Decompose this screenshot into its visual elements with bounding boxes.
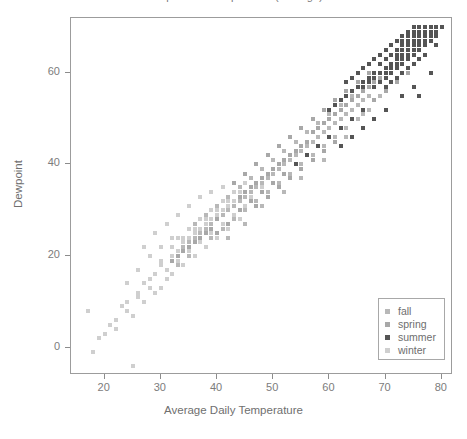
scatter-point-summer — [412, 30, 416, 34]
scatter-point-fall — [260, 181, 264, 185]
x-tick-label: 40 — [201, 381, 231, 393]
scatter-point-fall — [232, 217, 236, 221]
scatter-point-winter — [86, 309, 90, 313]
scatter-point-winter — [198, 227, 202, 231]
scatter-point-summer — [429, 34, 433, 38]
scatter-point-spring — [372, 98, 376, 102]
scatter-point-summer — [412, 53, 416, 57]
scatter-point-winter — [176, 249, 180, 253]
scatter-point-spring — [193, 240, 197, 244]
scatter-point-spring — [277, 162, 281, 166]
scatter-point-summer — [434, 34, 438, 38]
scatter-point-spring — [243, 190, 247, 194]
scatter-point-winter — [187, 236, 191, 240]
scatter-point-winter — [209, 208, 213, 212]
scatter-point-winter — [243, 181, 247, 185]
scatter-point-fall — [198, 231, 202, 235]
scatter-point-spring — [305, 140, 309, 144]
scatter-point-summer — [423, 30, 427, 34]
scatter-point-spring — [384, 89, 388, 93]
scatter-point-summer — [406, 53, 410, 57]
scatter-point-fall — [238, 185, 242, 189]
scatter-point-summer — [417, 48, 421, 52]
scatter-point-summer — [400, 94, 404, 98]
scatter-point-summer — [316, 144, 320, 148]
scatter-point-fall — [204, 227, 208, 231]
scatter-point-winter — [165, 222, 169, 226]
scatter-point-spring — [226, 222, 230, 226]
scatter-point-spring — [277, 144, 281, 148]
scatter-point-winter — [136, 291, 140, 295]
scatter-point-spring — [288, 135, 292, 139]
scatter-point-summer — [417, 25, 421, 29]
scatter-point-spring — [333, 140, 337, 144]
scatter-point-winter — [187, 249, 191, 253]
scatter-point-summer — [400, 71, 404, 75]
scatter-point-summer — [350, 76, 354, 80]
scatter-point-fall — [277, 181, 281, 185]
scatter-point-winter — [136, 295, 140, 299]
scatter-point-winter — [153, 231, 157, 235]
scatter-point-fall — [288, 158, 292, 162]
scatter-point-winter — [215, 236, 219, 240]
scatter-point-winter — [204, 222, 208, 226]
scatter-point-summer — [339, 144, 343, 148]
scatter-point-summer — [429, 71, 433, 75]
scatter-point-fall — [254, 199, 258, 203]
scatter-point-spring — [327, 117, 331, 121]
scatter-point-fall — [299, 176, 303, 180]
scatter-point-spring — [316, 126, 320, 130]
scatter-point-winter — [125, 300, 129, 304]
scatter-point-spring — [254, 181, 258, 185]
scatter-point-summer — [406, 48, 410, 52]
scatter-point-winter — [153, 272, 157, 276]
scatter-point-fall — [226, 236, 230, 240]
scatter-point-spring — [243, 172, 247, 176]
scatter-point-winter — [209, 231, 213, 235]
scatter-point-fall — [294, 153, 298, 157]
scatter-point-spring — [277, 185, 281, 189]
scatter-point-spring — [333, 98, 337, 102]
scatter-point-spring — [288, 176, 292, 180]
legend-swatch-fall — [385, 309, 390, 314]
y-tick-label: 40 — [36, 157, 60, 168]
scatter-point-winter — [97, 336, 101, 340]
legend-swatch-winter — [385, 348, 390, 353]
scatter-point-spring — [311, 117, 315, 121]
scatter-point-fall — [282, 190, 286, 194]
scatter-point-summer — [395, 66, 399, 70]
scatter-point-spring — [395, 80, 399, 84]
scatter-point-spring — [378, 76, 382, 80]
scatter-point-summer — [406, 30, 410, 34]
scatter-point-summer — [384, 76, 388, 80]
scatter-point-fall — [322, 130, 326, 134]
scatter-point-winter — [120, 304, 124, 308]
scatter-point-fall — [176, 263, 180, 267]
scatter-point-summer — [417, 57, 421, 61]
scatter-point-fall — [344, 112, 348, 116]
scatter-point-winter — [209, 190, 213, 194]
scatter-point-summer — [417, 34, 421, 38]
scatter-point-winter — [221, 185, 225, 189]
scatter-point-summer — [344, 80, 348, 84]
scatter-point-spring — [282, 172, 286, 176]
scatter-point-spring — [232, 181, 236, 185]
scatter-point-spring — [176, 254, 180, 258]
scatter-point-spring — [299, 167, 303, 171]
scatter-point-summer — [406, 39, 410, 43]
scatter-point-summer — [361, 66, 365, 70]
scatter-point-spring — [260, 176, 264, 180]
scatter-point-fall — [193, 236, 197, 240]
scatter-point-winter — [226, 199, 230, 203]
scatter-point-spring — [333, 112, 337, 116]
scatter-point-spring — [339, 108, 343, 112]
scatter-point-fall — [232, 204, 236, 208]
scatter-point-fall — [327, 126, 331, 130]
scatter-point-winter — [187, 204, 191, 208]
scatter-point-fall — [361, 98, 365, 102]
scatter-point-summer — [434, 25, 438, 29]
legend-label: fall — [398, 305, 411, 318]
scatter-point-fall — [215, 204, 219, 208]
scatter-point-winter — [176, 213, 180, 217]
scatter-point-winter — [232, 199, 236, 203]
